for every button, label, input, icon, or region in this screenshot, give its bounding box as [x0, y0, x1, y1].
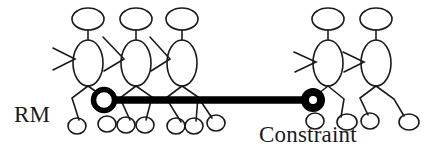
diagram-canvas: RM Constraint [0, 0, 429, 153]
connector-endpoint-left-ring[interactable] [94, 90, 115, 111]
stick-figure-diagram [0, 0, 429, 153]
connector-endpoint-right-hole [309, 96, 317, 104]
label-rm: RM [14, 103, 50, 126]
label-constraint: Constraint [259, 123, 357, 146]
